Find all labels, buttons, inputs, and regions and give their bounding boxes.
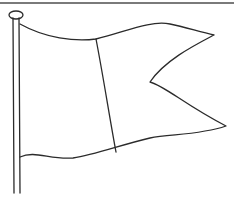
flag-illustration [0,0,234,202]
flag-fold-line [96,39,116,152]
flag-outline [20,23,226,158]
pole-right-edge [19,18,20,193]
pole-finial [9,11,23,19]
faint-caption [40,196,210,202]
pole-left-edge [13,18,14,193]
